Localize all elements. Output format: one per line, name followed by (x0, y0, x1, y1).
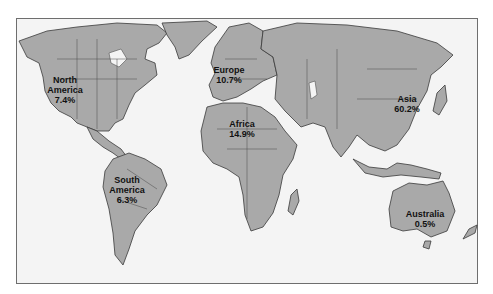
region-name: Europe (213, 65, 244, 75)
label-asia: Asia 60.2% (394, 94, 420, 114)
label-europe: Europe 10.7% (213, 65, 244, 85)
south-america-landmass (103, 153, 167, 265)
madagascar-landmass (288, 189, 299, 215)
region-name: Asia (394, 94, 420, 104)
label-australia: Australia 0.5% (406, 209, 445, 229)
region-name: South (109, 175, 145, 185)
new-zealand-landmass (463, 225, 477, 239)
region-percentage: 10.7% (213, 75, 244, 85)
label-south-america: South America 6.3% (109, 175, 145, 205)
region-name: Africa (229, 119, 255, 129)
label-north-america: North America 7.4% (47, 75, 83, 105)
region-name: America (47, 85, 83, 95)
region-percentage: 0.5% (406, 219, 445, 229)
tasmania-landmass (423, 241, 431, 249)
region-percentage: 6.3% (109, 195, 145, 205)
label-africa: Africa 14.9% (229, 119, 255, 139)
world-map: North America 7.4% South America 6.3% Eu… (16, 18, 478, 284)
map-canvas (17, 19, 479, 285)
region-percentage: 7.4% (47, 95, 83, 105)
greenland-landmass (162, 21, 217, 59)
region-name: Australia (406, 209, 445, 219)
region-name: North (47, 75, 83, 85)
region-percentage: 14.9% (229, 129, 255, 139)
indonesia-landmass (353, 159, 441, 179)
region-percentage: 60.2% (394, 104, 420, 114)
central-america-landmass (87, 127, 127, 159)
north-america-landmass (19, 23, 167, 131)
region-name: America (109, 185, 145, 195)
japan-landmass (433, 85, 447, 115)
